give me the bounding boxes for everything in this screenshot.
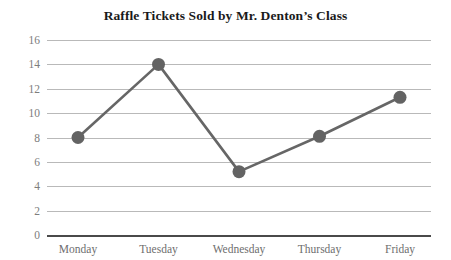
chart-figure: Raffle Tickets Sold by Mr. Denton’s Clas… <box>0 0 451 260</box>
y-axis-tick-label: 2 <box>34 205 40 217</box>
plot-area: 0246810121416 MondayTuesdayWednesdayThur… <box>47 40 431 235</box>
data-point-marker <box>152 58 165 71</box>
axis-baseline: 0 <box>47 235 431 237</box>
data-point-marker <box>394 91 407 104</box>
series-line-path <box>78 64 400 171</box>
y-axis-tick-label: 14 <box>29 58 41 70</box>
data-point-marker <box>72 131 85 144</box>
chart-title: Raffle Tickets Sold by Mr. Denton’s Clas… <box>0 8 451 24</box>
y-axis-tick-label: 6 <box>34 156 40 168</box>
y-axis-tick-label: 16 <box>29 34 41 46</box>
y-axis-tick-label: 10 <box>29 107 41 119</box>
y-axis-tick-label: 4 <box>34 180 40 192</box>
x-axis-tick-label: Monday <box>59 243 97 255</box>
x-axis-tick-label: Wednesday <box>213 243 266 255</box>
line-series <box>47 40 431 235</box>
x-axis-tick-label: Thursday <box>298 243 341 255</box>
y-axis-tick-label: 8 <box>34 132 40 144</box>
x-axis-tick-label: Friday <box>385 243 415 255</box>
x-axis-tick-label: Tuesday <box>139 243 178 255</box>
y-axis-tick-label: 12 <box>29 83 41 95</box>
data-point-marker <box>313 130 326 143</box>
y-axis-tick-label: 0 <box>34 229 40 241</box>
data-point-marker <box>233 165 246 178</box>
